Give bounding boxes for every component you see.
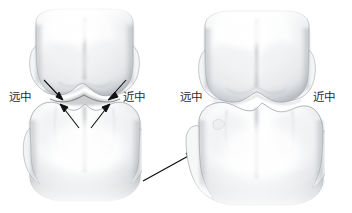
right-panel-teeth: [186, 11, 330, 205]
label-left-panel-distal: 远中: [9, 91, 32, 104]
left-panel-teeth: [23, 9, 147, 201]
label-left-panel-mesial: 近中: [123, 91, 146, 104]
upper-molar-right: [199, 11, 316, 102]
lower-molar-left: [23, 102, 147, 201]
label-right-panel-mesial: 近中: [313, 91, 336, 104]
dental-contact-diagram: 远中 近中 远中 近中: [0, 0, 352, 213]
tooth-illustration-layer: [0, 0, 352, 213]
lower-molar-right: [186, 102, 330, 205]
label-right-panel-distal: 远中: [180, 91, 203, 104]
